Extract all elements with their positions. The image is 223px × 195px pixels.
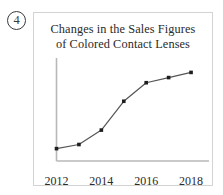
plot-area: [34, 13, 214, 187]
x-tick-label-2016: 2016: [134, 174, 158, 188]
data-point-2015: [122, 99, 126, 103]
x-tick-label-2012: 2012: [45, 174, 69, 188]
data-series-line: [57, 72, 192, 148]
data-point-markers: [55, 71, 193, 151]
item-number-badge: 4: [7, 11, 26, 30]
x-axis-tick-labels: 2012201420162018: [34, 174, 214, 190]
data-point-2012: [55, 147, 59, 151]
data-point-2014: [100, 128, 104, 132]
data-point-2016: [144, 81, 148, 85]
x-tick-label-2014: 2014: [89, 174, 113, 188]
data-point-2018: [189, 71, 193, 75]
x-tick-label-2018: 2018: [179, 174, 203, 188]
line-chart-svg: [34, 13, 214, 187]
figure-frame: Changes in the Sales Figures of Colored …: [33, 12, 213, 186]
data-point-2017: [167, 76, 171, 80]
data-point-2013: [77, 143, 81, 147]
